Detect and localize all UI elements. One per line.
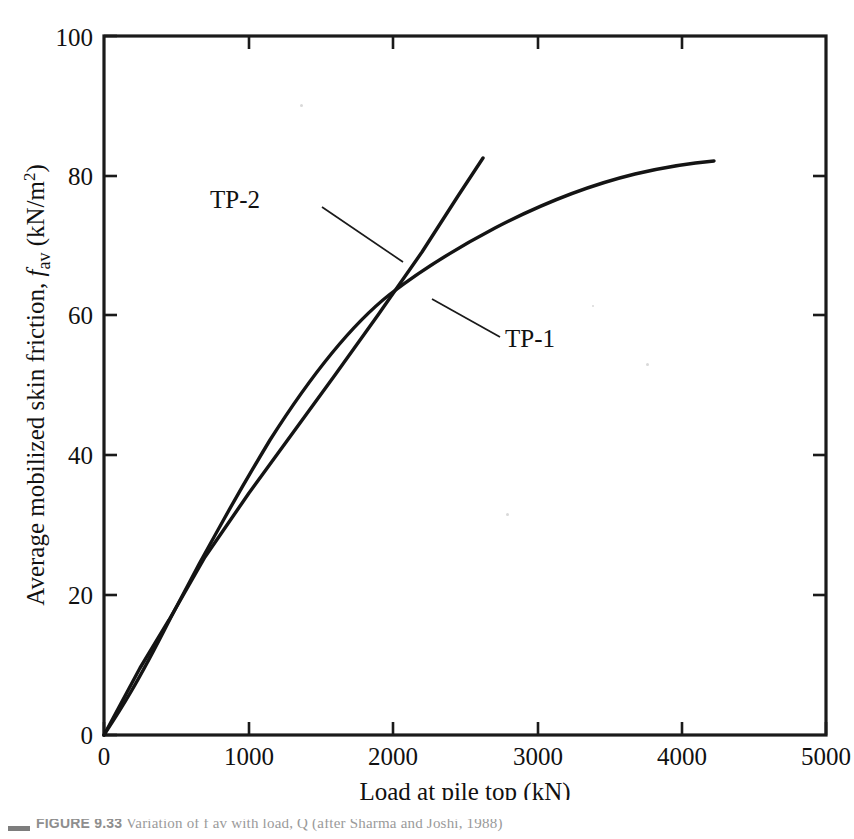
scan-speck	[300, 104, 303, 107]
caption-marker-bar	[8, 826, 30, 831]
leader-line-tp1	[432, 299, 500, 337]
chart-canvas: 0 1000 2000 3000 4000 5000 0 20 40 60 80…	[0, 0, 854, 800]
y-tick-label-80: 80	[68, 163, 93, 190]
series-line-tp1	[104, 161, 714, 735]
x-axis-title: Load at pile top (kN)	[359, 778, 570, 800]
y-tick-label-100: 100	[56, 24, 94, 51]
y-axis-title-units-close: )	[22, 164, 50, 172]
x-tick-label-4000: 4000	[657, 743, 707, 770]
y-axis-title-units-sup: 2	[20, 173, 39, 182]
figure-caption-text: Variation of f av with load, Q (after Sh…	[126, 819, 503, 831]
x-tick-label-0: 0	[98, 743, 111, 770]
y-axis-ticks	[104, 36, 117, 735]
plot-frame	[104, 36, 826, 735]
y-tick-label-20: 20	[68, 582, 93, 609]
x-axis-ticks	[104, 722, 826, 735]
x-tick-label-2000: 2000	[368, 743, 418, 770]
scan-speck	[646, 363, 649, 366]
series-label-tp2: TP-2	[210, 186, 260, 213]
figure-caption: FIGURE 9.33 Variation of f av with load,…	[36, 819, 503, 832]
x-tick-label-3000: 3000	[513, 743, 563, 770]
y-axis-title-main: Average mobilized skin friction,	[22, 283, 49, 606]
figure-caption-clip: FIGURE 9.33 Variation of f av with load,…	[36, 819, 836, 839]
x-tick-label-5000: 5000	[801, 743, 851, 770]
x-tick-label-1000: 1000	[224, 743, 274, 770]
scan-speck	[506, 513, 509, 516]
y-axis-title-units-open: (kN/m	[22, 180, 50, 246]
y-tick-label-0: 0	[81, 722, 94, 749]
figure-caption-row: FIGURE 9.33 Variation of f av with load,…	[0, 819, 854, 839]
y-axis-title: Average mobilized skin friction, fav (kN…	[20, 164, 54, 606]
x-axis-ticks-top	[249, 36, 682, 49]
scan-speck	[592, 305, 594, 307]
y-tick-label-60: 60	[68, 302, 93, 329]
series-line-tp2	[104, 158, 483, 735]
y-axis-ticks-right	[813, 176, 826, 595]
leader-line-tp2	[322, 207, 403, 262]
series-label-tp1: TP-1	[505, 325, 555, 352]
svg-text:Average mobilized skin frictio: Average mobilized skin friction, fav (kN…	[20, 164, 54, 606]
figure-caption-label: FIGURE 9.33	[36, 819, 122, 831]
y-tick-label-40: 40	[68, 442, 93, 469]
figure-root: 0 1000 2000 3000 4000 5000 0 20 40 60 80…	[0, 0, 854, 839]
y-axis-title-symbol-sub: av	[34, 253, 54, 270]
